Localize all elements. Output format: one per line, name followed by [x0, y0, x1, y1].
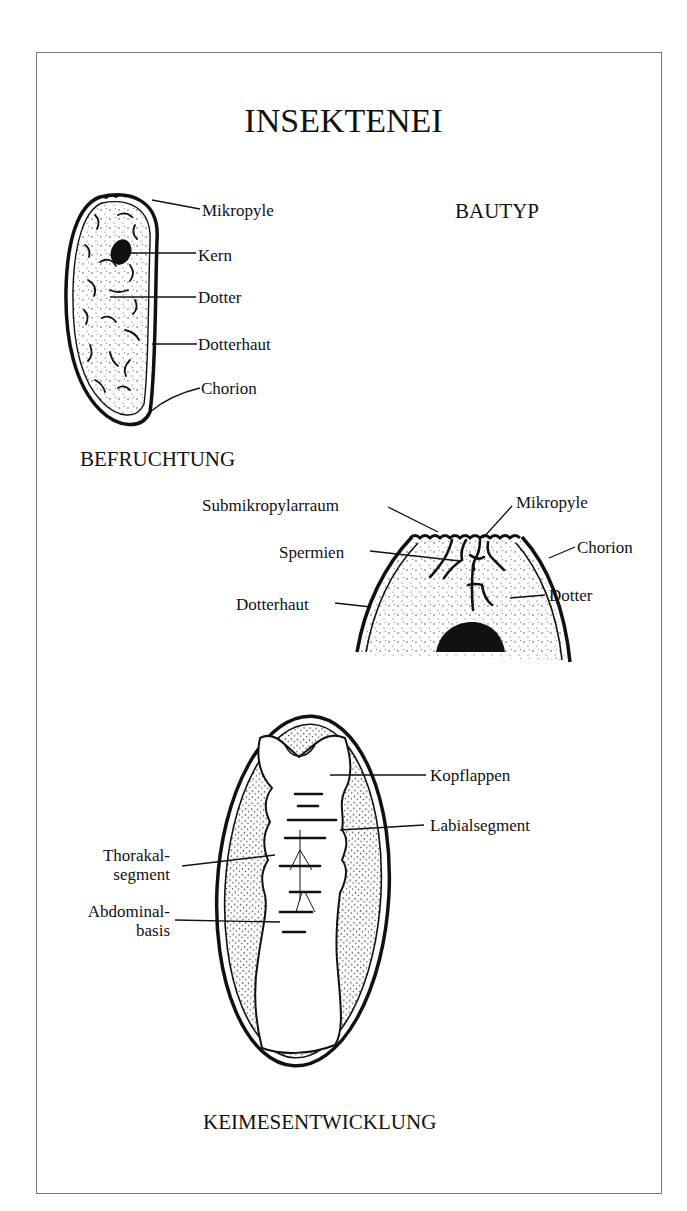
- diagram-artwork: [0, 0, 687, 1211]
- page-title: INSEKTENEI: [0, 104, 687, 138]
- label-mikropyle: Mikropyle: [202, 202, 274, 219]
- label-submikropylarraum: Submikropylarraum: [202, 497, 339, 514]
- label-dotterhaut: Dotterhaut: [198, 336, 271, 353]
- keimesentwicklung-egg: [175, 712, 426, 1071]
- label-kern: Kern: [198, 247, 232, 264]
- label-dotterhaut-2: Dotterhaut: [236, 596, 309, 613]
- label-thorakalsegment-line1: Thorakal-: [96, 847, 170, 864]
- section-heading-bautyp: BAUTYP: [455, 201, 539, 222]
- germ-band: [255, 736, 350, 1053]
- label-kopflappen: Kopflappen: [430, 767, 510, 784]
- label-abdominalbasis-line1: Abdominal-: [86, 903, 170, 920]
- befruchtung-egg: [335, 506, 575, 662]
- label-chorion-2: Chorion: [577, 539, 633, 556]
- section-heading-befruchtung: BEFRUCHTUNG: [80, 449, 235, 470]
- label-abdominalbasis-line2: basis: [96, 922, 170, 939]
- label-thorakalsegment-line2: segment: [96, 866, 170, 883]
- label-dotter-2: Dotter: [549, 587, 592, 604]
- mikropyle-surface: [410, 536, 520, 539]
- label-dotter: Dotter: [198, 289, 241, 306]
- label-mikropyle-2: Mikropyle: [516, 494, 588, 511]
- label-labialsegment: Labialsegment: [430, 817, 530, 834]
- section-heading-keimesentwicklung: KEIMESENTWICKLUNG: [203, 1112, 436, 1133]
- dotterhaut-outline: [73, 202, 150, 415]
- bautyp-egg: [66, 195, 200, 425]
- label-chorion: Chorion: [201, 380, 257, 397]
- label-spermien: Spermien: [279, 544, 344, 561]
